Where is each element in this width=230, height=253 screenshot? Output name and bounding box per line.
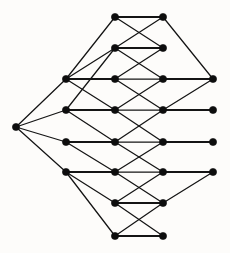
graph-node — [209, 138, 216, 145]
graph-node — [62, 106, 69, 113]
graph-node — [111, 232, 118, 239]
graph-node — [111, 138, 118, 145]
graph-node — [111, 13, 118, 20]
graph-node — [12, 123, 19, 130]
graph-node — [209, 106, 216, 113]
graph-node — [159, 168, 166, 175]
graph-node — [62, 75, 69, 82]
graph-node — [111, 75, 118, 82]
graph-node — [111, 199, 118, 206]
graph-node — [159, 106, 166, 113]
graph-diagram — [0, 0, 230, 253]
diagram-background — [0, 0, 230, 253]
graph-node — [111, 168, 118, 175]
graph-node — [111, 44, 118, 51]
graph-node — [209, 75, 216, 82]
graph-node — [62, 138, 69, 145]
graph-node — [111, 106, 118, 113]
graph-node — [159, 44, 166, 51]
graph-node — [159, 75, 166, 82]
graph-node — [159, 13, 166, 20]
graph-node — [159, 199, 166, 206]
graph-node — [159, 232, 166, 239]
graph-node — [62, 168, 69, 175]
graph-canvas — [0, 0, 230, 253]
graph-node — [159, 138, 166, 145]
graph-node — [209, 168, 216, 175]
